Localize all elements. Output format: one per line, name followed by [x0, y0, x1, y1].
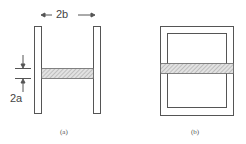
hatched-strip-a [42, 69, 94, 79]
right-plate [94, 27, 101, 114]
figure-a [15, 13, 101, 114]
width-label: 2b [56, 8, 68, 20]
thickness-dimension-arrows [15, 55, 31, 92]
caption-b: (b) [191, 128, 199, 136]
caption-a: (a) [60, 128, 68, 136]
hatched-strip-b [161, 64, 234, 74]
left-plate [35, 27, 42, 114]
figure-b [161, 27, 234, 116]
diagram-canvas [0, 0, 246, 144]
thickness-label: 2a [10, 92, 22, 104]
